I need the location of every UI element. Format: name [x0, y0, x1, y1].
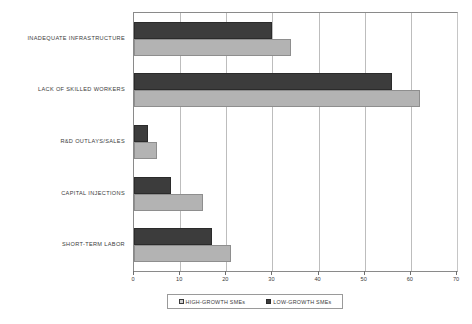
bar-low-growth — [134, 245, 231, 262]
category-label: LACK OF SKILLED WORKERS — [0, 86, 125, 92]
x-axis-tick — [271, 271, 272, 275]
x-axis-tick — [410, 271, 411, 275]
gridline — [319, 13, 320, 271]
category-label: INADEQUATE INFRASTRUCTURE — [0, 35, 125, 41]
legend-entry: HIGH-GROWTH SMEs — [179, 299, 246, 305]
low-growth-swatch-icon — [266, 299, 271, 304]
x-axis-tick-label: 10 — [176, 276, 182, 282]
gridline — [457, 13, 458, 271]
x-axis-tick-label: 30 — [268, 276, 274, 282]
x-axis: 010203040506070 — [133, 271, 457, 291]
bar-high-growth — [134, 22, 272, 39]
category-label: CAPITAL INJECTIONS — [0, 190, 125, 196]
gridline — [365, 13, 366, 271]
bar-high-growth — [134, 228, 212, 245]
legend-entry: LOW-GROWTH SMEs — [266, 299, 331, 305]
x-axis-tick-label: 0 — [131, 276, 134, 282]
x-axis-tick-label: 20 — [222, 276, 228, 282]
x-axis-tick-label: 40 — [314, 276, 320, 282]
bar-high-growth — [134, 177, 171, 194]
bar-low-growth — [134, 90, 420, 107]
x-axis-tick-label: 70 — [453, 276, 459, 282]
x-axis-tick — [179, 271, 180, 275]
bar-low-growth — [134, 194, 203, 211]
gridline — [411, 13, 412, 271]
x-axis-tick — [364, 271, 365, 275]
x-axis-tick — [456, 271, 457, 275]
x-axis-tick — [318, 271, 319, 275]
legend-label: HIGH-GROWTH SMEs — [186, 299, 246, 305]
category-axis-labels: INADEQUATE INFRASTRUCTURELACK OF SKILLED… — [0, 12, 130, 270]
bar-low-growth — [134, 142, 157, 159]
x-axis-tick-label: 50 — [361, 276, 367, 282]
category-label: R&D OUTLAYS/SALES — [0, 138, 125, 144]
high-growth-swatch-icon — [179, 299, 184, 304]
plot-area — [133, 12, 458, 272]
bar-chart: INADEQUATE INFRASTRUCTURELACK OF SKILLED… — [0, 0, 472, 324]
x-axis-tick-label: 60 — [407, 276, 413, 282]
bar-high-growth — [134, 125, 148, 142]
chart-legend: HIGH-GROWTH SMEsLOW-GROWTH SMEs — [167, 294, 343, 309]
bar-high-growth — [134, 73, 392, 90]
legend-label: LOW-GROWTH SMEs — [273, 299, 331, 305]
category-label: SHORT-TERM LABOR — [0, 241, 125, 247]
x-axis-tick — [133, 271, 134, 275]
x-axis-tick — [225, 271, 226, 275]
bar-low-growth — [134, 39, 291, 56]
